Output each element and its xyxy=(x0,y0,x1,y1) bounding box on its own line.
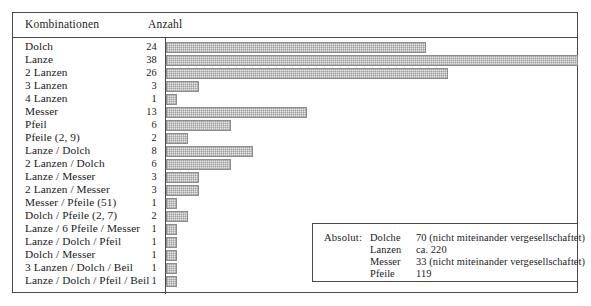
chart-row: Dolch24 xyxy=(13,41,577,54)
value-bar xyxy=(166,263,177,274)
row-category-label: Dolch / Messer xyxy=(25,248,95,261)
chart-row: Lanze38 xyxy=(13,54,577,67)
legend-item-value: ca. 220 xyxy=(416,244,447,255)
row-category-label: 3 Lanzen xyxy=(25,79,68,92)
value-bar xyxy=(166,120,231,131)
row-category-label: Lanze xyxy=(25,53,53,66)
row-category-label: 2 Lanzen / Dolch xyxy=(25,157,105,170)
legend-title: Absolut: xyxy=(324,232,362,243)
row-value-label: 2 xyxy=(109,131,157,144)
row-category-label: Messer / Pfeile (51) xyxy=(25,196,116,209)
row-category-label: 2 Lanzen / Messer xyxy=(25,183,110,196)
value-bar xyxy=(166,94,177,105)
value-bar xyxy=(166,146,253,157)
legend-row: Dolche70 (nicht miteinander vergesellsch… xyxy=(370,232,575,244)
value-bar xyxy=(166,133,188,144)
row-value-label: 3 xyxy=(109,183,157,196)
row-value-label: 3 xyxy=(109,79,157,92)
row-category-label: 4 Lanzen xyxy=(25,92,68,105)
legend-item-name: Lanzen xyxy=(370,244,401,255)
row-value-label: 26 xyxy=(109,66,157,79)
row-value-label: 1 xyxy=(109,222,157,235)
legend-item-value: 119 xyxy=(416,268,432,279)
row-category-label: Pfeil xyxy=(25,118,47,131)
value-bar xyxy=(166,276,177,287)
row-value-label: 24 xyxy=(109,40,157,53)
row-value-label: 3 xyxy=(109,170,157,183)
row-category-label: Dolch xyxy=(25,40,53,53)
chart-row: 2 Lanzen / Dolch6 xyxy=(13,158,577,171)
value-bar xyxy=(166,81,199,92)
legend-panel: Absolut: Dolche70 (nicht miteinander ver… xyxy=(312,223,578,282)
row-value-label: 1 xyxy=(109,196,157,209)
value-bar xyxy=(166,107,307,118)
row-value-label: 1 xyxy=(109,261,157,274)
chart-row: 4 Lanzen1 xyxy=(13,93,577,106)
row-category-label: Messer xyxy=(25,105,58,118)
row-value-label: 6 xyxy=(109,118,157,131)
legend-row: Pfeile119 xyxy=(370,268,575,280)
chart-frame: Kombinationen Anzahl Dolch24Lanze382 Lan… xyxy=(12,12,578,293)
value-bar xyxy=(166,224,177,235)
row-category-label: 2 Lanzen xyxy=(25,66,68,79)
row-category-label: Lanze / Messer xyxy=(25,170,95,183)
value-bar xyxy=(166,42,426,53)
row-category-label: Dolch / Pfeile (2, 7) xyxy=(25,209,117,222)
value-bar xyxy=(166,198,177,209)
row-value-label: 13 xyxy=(109,105,157,118)
legend-item-name: Pfeile xyxy=(370,268,395,279)
value-bar xyxy=(166,55,578,66)
value-bar xyxy=(166,250,177,261)
value-bar xyxy=(166,172,199,183)
legend-item-name: Dolche xyxy=(370,232,401,243)
chart-row: Messer13 xyxy=(13,106,577,119)
value-bar xyxy=(166,159,231,170)
row-value-label: 1 xyxy=(109,92,157,105)
chart-row: Pfeil6 xyxy=(13,119,577,132)
legend-item-value: 70 (nicht miteinander vergesellschaftet) xyxy=(416,232,585,243)
legend-item-value: 33 (nicht miteinander vergesellschaftet) xyxy=(416,256,585,267)
row-category-label: Pfeile (2, 9) xyxy=(25,131,80,144)
value-bar xyxy=(166,237,177,248)
row-value-label: 1 xyxy=(109,235,157,248)
column-header-kombinationen: Kombinationen xyxy=(25,18,99,30)
row-value-label: 8 xyxy=(109,144,157,157)
row-category-label: Lanze / Dolch xyxy=(25,144,90,157)
row-value-label: 1 xyxy=(109,274,157,287)
value-bar xyxy=(166,185,199,196)
row-value-label: 1 xyxy=(109,248,157,261)
column-header-anzahl: Anzahl xyxy=(148,18,182,30)
row-category-label: Lanze / Dolch / Pfeil xyxy=(25,235,121,248)
row-value-label: 38 xyxy=(109,53,157,66)
row-value-label: 6 xyxy=(109,157,157,170)
row-value-label: 2 xyxy=(109,209,157,222)
chart-row: 2 Lanzen26 xyxy=(13,67,577,80)
table-header: Kombinationen Anzahl xyxy=(13,13,577,38)
value-bar xyxy=(166,68,448,79)
legend-row: Lanzenca. 220 xyxy=(370,244,575,256)
legend-item-name: Messer xyxy=(370,256,401,267)
chart-row: Pfeile (2, 9)2 xyxy=(13,132,577,145)
value-bar xyxy=(166,211,188,222)
chart-row: 3 Lanzen3 xyxy=(13,80,577,93)
legend-row: Messer33 (nicht miteinander vergesellsch… xyxy=(370,256,575,268)
